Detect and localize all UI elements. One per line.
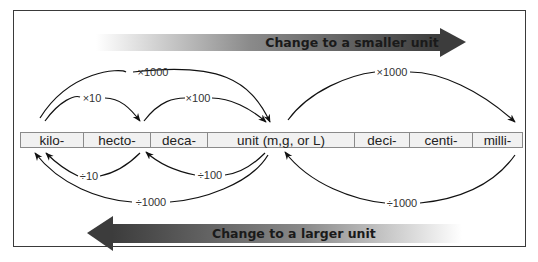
unit-prefix-row: kilo- hecto- deca- unit (m,g, or L) deci…: [20, 132, 523, 148]
divide-1000-left-label: ÷1000: [136, 196, 167, 208]
times-1000-left-label: ×1000: [138, 66, 169, 78]
unit-cell-base: unit (m,g, or L): [208, 133, 355, 147]
times-100-label: ×100: [186, 92, 211, 104]
unit-cell-deca: deca-: [151, 133, 208, 147]
times-10-label: ×10: [83, 92, 102, 104]
unit-cell-kilo: kilo-: [21, 133, 84, 147]
multiply-arcs: [40, 69, 515, 122]
divide-arcs: [35, 152, 515, 203]
unit-cell-milli: milli-: [473, 133, 522, 147]
multiply-labels: ×1000 ×10 ×100 ×1000: [83, 66, 408, 104]
divide-100-label: ÷100: [198, 169, 222, 181]
unit-cell-hecto: hecto-: [84, 133, 151, 147]
divide-10-label: ÷10: [80, 170, 98, 182]
larger-unit-arrow: Change to a larger unit: [87, 216, 462, 251]
metric-conversion-diagram: Change to a smaller unit Change to a lar…: [0, 0, 538, 262]
larger-unit-label: Change to a larger unit: [212, 226, 376, 241]
divide-1000-right-label: ÷1000: [387, 197, 418, 209]
unit-cell-deci: deci-: [355, 133, 410, 147]
smaller-unit-label: Change to a smaller unit: [265, 35, 438, 50]
times-1000-right-label: ×1000: [377, 66, 408, 78]
smaller-unit-arrow: Change to a smaller unit: [96, 28, 466, 57]
unit-cell-centi: centi-: [410, 133, 473, 147]
